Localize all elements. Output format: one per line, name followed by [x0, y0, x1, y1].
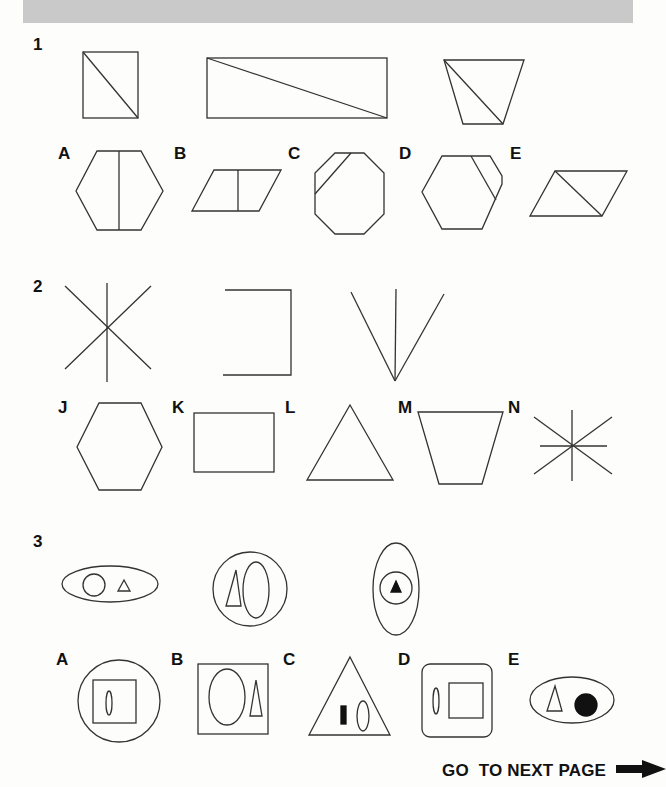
figure-open-bracket-three-sides: [223, 290, 291, 375]
option-2j-hexagon[interactable]: [77, 403, 162, 490]
arrow-right-icon: [616, 760, 666, 782]
option-2n-eight-ray-star[interactable]: [534, 410, 612, 481]
option-1a-hexagon-with-vertical-line[interactable]: [76, 151, 163, 230]
go-to-next-page: GO TO NEXT PAGE: [442, 760, 666, 782]
option-3a-circle-with-square-and-ellipse[interactable]: [78, 660, 160, 742]
option-2k-rectangle[interactable]: [194, 413, 274, 472]
figure-ellipse-with-circle-and-triangle: [62, 566, 158, 602]
option-3e-ellipse-with-triangle-and-solid-circle[interactable]: [530, 677, 614, 723]
option-3c-triangle-with-solid-bar-and-ellipse[interactable]: [309, 657, 390, 735]
figure-three-line-fan: [351, 289, 444, 381]
option-3d-rounded-square-with-ellipse-and-square[interactable]: [422, 664, 492, 737]
option-2l-triangle[interactable]: [307, 405, 393, 480]
figure-trapezoid-with-diagonal: [444, 60, 524, 124]
option-1b-parallelogram-with-vertical-line[interactable]: [192, 170, 281, 211]
figure-wide-rectangle-with-diagonal: [207, 58, 387, 118]
figure-rectangle-with-diagonal: [83, 52, 138, 118]
option-1e-parallelogram-with-diagonal[interactable]: [530, 171, 627, 216]
option-3b-square-with-ellipse-and-triangle[interactable]: [198, 664, 268, 734]
figure-six-ray-star: [65, 283, 151, 382]
go-to-next-page-label: GO TO NEXT PAGE: [442, 761, 606, 781]
option-2m-trapezoid[interactable]: [418, 412, 503, 484]
figure-ellipse-with-circle-and-solid-triangle: [373, 543, 419, 635]
option-1c-octagon-with-corner-line[interactable]: [315, 153, 384, 234]
figure-circle-with-triangle-and-ellipse: [213, 552, 287, 626]
option-1d-hexagon-with-parallel-edge-line[interactable]: [422, 156, 502, 229]
